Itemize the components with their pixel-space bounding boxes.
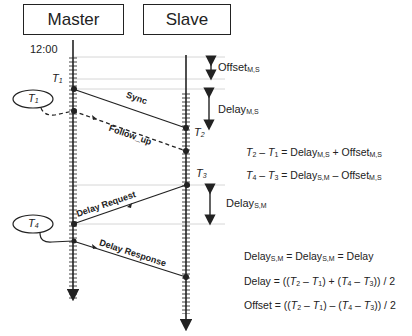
delay-ms-interval-label: DelayM,S — [218, 103, 259, 115]
t1-ellipse-label: T1 — [28, 92, 39, 104]
time-label: 12:00 — [30, 43, 58, 55]
delay-sm-interval-label: DelayS,M — [226, 197, 267, 209]
master-box: Master — [23, 4, 124, 35]
t4-ellipse-label: T4 — [28, 217, 39, 229]
t3-label: T3 — [196, 167, 207, 179]
equation-2: T4 – T3 = DelayS,M – OffsetM,S — [246, 169, 382, 181]
equation-5: Offset = ((T2 – T1) – (T4 – T3)) / 2 — [244, 299, 396, 311]
equation-3: DelayS,M = DelayS,M = Delay — [244, 250, 373, 262]
t2-label: T2 — [194, 126, 205, 138]
equation-1: T2 – T1 = DelayM,S + OffsetM,S — [246, 146, 382, 158]
offset-interval-label: OffsetM,S — [218, 61, 260, 73]
equation-4: Delay = ((T2 – T1) + (T4 – T3)) / 2 — [244, 275, 395, 287]
t1-label: T1 — [52, 72, 63, 84]
slave-box: Slave — [143, 4, 231, 35]
